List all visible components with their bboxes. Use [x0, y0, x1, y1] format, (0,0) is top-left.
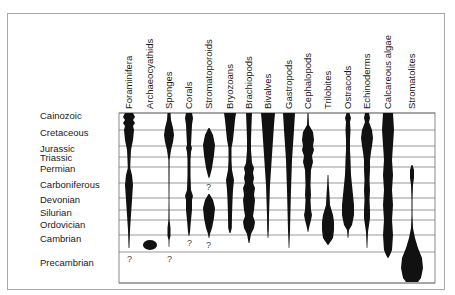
- period-label: Devonian: [40, 195, 80, 205]
- fossil-group-label: Ostracods: [343, 66, 353, 109]
- stratigraphic-range-shape: [361, 113, 373, 248]
- period-label: Cambrian: [40, 234, 81, 244]
- stratigraphic-range-shape: [164, 113, 174, 247]
- stratigraphic-range-shape: [283, 113, 295, 248]
- period-label: Ordovician: [40, 220, 85, 230]
- period-label: Cretaceous: [40, 128, 89, 138]
- stratigraphic-range-shape: [302, 113, 314, 232]
- stratigraphic-range-shape: [261, 113, 275, 238]
- stratigraphic-range-shape: [224, 113, 236, 233]
- fossil-group-label: Echinoderms: [362, 54, 372, 109]
- stratigraphic-range-shape: [243, 113, 255, 243]
- uncertain-mark: ?: [167, 254, 172, 264]
- fossil-group-label: Sponges: [164, 71, 174, 109]
- stratigraphic-range-shape: [143, 240, 157, 250]
- fossil-group-label: Calcareous algae: [383, 35, 393, 109]
- fossil-group-label: Archaeocyathids: [145, 39, 155, 109]
- stratigraphic-range-shape: [401, 165, 423, 282]
- fossil-group-label: Foraminifera: [124, 56, 134, 109]
- fossil-group-label: Cephalopods: [303, 53, 313, 109]
- period-label: Triassic: [40, 153, 72, 163]
- stratigraphic-range-shape: [203, 128, 215, 178]
- fossil-group-label: Bivalves: [263, 74, 273, 109]
- uncertain-mark: ?: [187, 238, 192, 248]
- stratigraphic-range-shape: [382, 113, 394, 258]
- period-label: Cainozoic: [40, 111, 82, 121]
- fossil-group-label: Stromatolites: [407, 54, 417, 109]
- uncertain-mark: ?: [127, 254, 132, 264]
- period-label: Permian: [40, 164, 75, 174]
- fossil-group-label: Gastropods: [284, 60, 294, 109]
- uncertain-mark: ?: [206, 240, 211, 250]
- period-label: Silurian: [40, 208, 72, 218]
- stratigraphic-range-shape: [123, 113, 135, 248]
- period-label: Precambrian: [40, 258, 94, 268]
- stratigraphic-range-shape: [203, 194, 215, 238]
- stratigraphic-range-shape: [342, 113, 354, 238]
- stratigraphic-range-shape: [185, 113, 193, 236]
- fossil-group-label: Bryozoans: [225, 64, 235, 109]
- fossil-group-label: Stromatoporoids: [204, 39, 214, 109]
- period-label: Carboniferous: [40, 180, 100, 190]
- fossil-group-label: Brachiopods: [244, 56, 254, 109]
- uncertain-mark: ?: [206, 182, 211, 192]
- fossil-group-label: Corals: [184, 82, 194, 109]
- fossil-group-label: Trilobites: [323, 71, 333, 109]
